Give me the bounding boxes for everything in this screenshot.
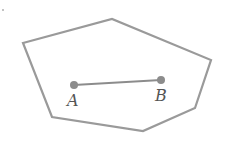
convex-polygon [23, 19, 211, 131]
stray-dot [2, 9, 4, 11]
point-b [157, 76, 165, 84]
diagram-canvas: A B [0, 0, 228, 145]
point-a [70, 81, 78, 89]
segment-ab [74, 80, 161, 85]
label-b: B [154, 86, 167, 105]
label-a: A [65, 91, 79, 110]
